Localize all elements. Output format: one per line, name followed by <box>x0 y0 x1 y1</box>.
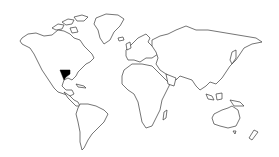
southeast-asia-islands <box>216 93 222 100</box>
new-guinea <box>230 100 244 106</box>
south-america <box>76 104 108 150</box>
arctic-islands <box>70 27 78 33</box>
world-map <box>0 0 279 157</box>
southeast-asia-islands <box>206 94 214 100</box>
arctic-islands <box>62 19 74 25</box>
arctic-islands <box>74 15 88 21</box>
africa <box>122 64 170 128</box>
tasmania <box>233 131 236 134</box>
iceland <box>118 37 124 41</box>
new-zealand <box>249 130 258 140</box>
australia <box>212 106 240 128</box>
madagascar <box>163 110 167 120</box>
arctic-islands <box>52 24 64 30</box>
caribbean <box>76 84 86 88</box>
